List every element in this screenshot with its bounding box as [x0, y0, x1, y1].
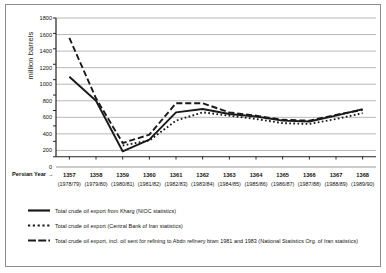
x-tick-label-persian: 1368 [340, 171, 386, 180]
y-tick-label: 0 [26, 164, 52, 170]
legend-item: Total crude oil export, incl. oil sent f… [28, 233, 373, 248]
y-tick-label: 1000 [26, 81, 52, 87]
y-tick-label: 400 [26, 131, 52, 137]
legend-item: Total crude oil export from Kharg (NIOC … [28, 203, 373, 218]
legend-label: Total crude oil export from Kharg (NIOC … [55, 208, 176, 214]
y-tick-label: 1400 [26, 48, 52, 54]
y-tick-label: 200 [26, 147, 52, 153]
chart-legend: Total crude oil export from Kharg (NIOC … [28, 203, 373, 248]
y-tick-label: 1600 [26, 32, 52, 38]
plot-area [56, 18, 376, 167]
chart-figure: million barrels 020040060080010001200140… [5, 4, 381, 267]
x-axis-tick-labels: 1357(1978/79)1358(1979/80)1359(1980/81)1… [56, 171, 376, 193]
legend-swatch-dashed [28, 236, 50, 245]
y-tick-label: 600 [26, 114, 52, 120]
y-tick-label: 800 [26, 98, 52, 104]
legend-swatch-dotted [28, 221, 50, 230]
y-tick-label: 1200 [26, 65, 52, 71]
legend-item: Total crude oil export (Central Bank of … [28, 218, 373, 233]
legend-label: Total crude oil export, incl. oil sent f… [55, 238, 358, 244]
x-tick-label-gregorian: (1989/90) [340, 180, 386, 189]
legend-swatch-solid [28, 206, 50, 215]
axis-layer [56, 18, 376, 167]
y-axis-tick-labels: 020040060080010001200140016001800 [22, 18, 52, 167]
legend-label: Total crude oil export (Central Bank of … [55, 223, 183, 229]
y-tick-label: 1800 [26, 15, 52, 21]
x-tick-group: 1368(1989/90) [340, 171, 386, 188]
